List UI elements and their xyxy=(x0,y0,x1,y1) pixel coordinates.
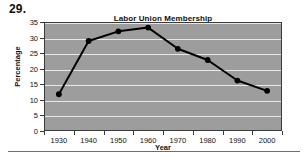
chart-figure: Labor Union Membership Percentage 051015… xyxy=(0,12,308,148)
x-axis-tick-mark xyxy=(193,131,194,135)
y-axis-tick-label: 10 xyxy=(8,95,38,104)
data-point-marker xyxy=(205,57,211,63)
data-series-line xyxy=(44,22,282,131)
x-axis-tick-mark xyxy=(252,131,253,135)
x-axis-tick-mark xyxy=(44,131,45,135)
y-axis-tick-label: 35 xyxy=(8,18,38,27)
data-point-marker xyxy=(115,28,121,34)
y-axis-tick-label: 15 xyxy=(8,80,38,89)
data-point-marker xyxy=(175,46,181,52)
series-polyline xyxy=(59,28,267,95)
x-axis-tick-mark xyxy=(133,131,134,135)
data-point-marker xyxy=(145,25,151,31)
y-axis-tick-label: 5 xyxy=(8,111,38,120)
x-axis-tick-mark xyxy=(104,131,105,135)
y-axis-tick-label: 25 xyxy=(8,49,38,58)
data-point-marker xyxy=(56,91,62,97)
y-axis-tick-label: 20 xyxy=(8,64,38,73)
y-axis-tick-label: 0 xyxy=(8,127,38,136)
data-point-marker xyxy=(86,38,92,44)
bottom-divider xyxy=(8,151,300,152)
x-axis-tick-mark xyxy=(282,131,283,135)
x-axis-tick-mark xyxy=(163,131,164,135)
x-axis-tick-mark xyxy=(74,131,75,135)
series-markers xyxy=(56,25,270,97)
data-point-marker xyxy=(234,78,240,84)
y-axis-tick-label: 30 xyxy=(8,33,38,42)
data-point-marker xyxy=(264,88,270,94)
y-axis-tick-labels: 05101520253035 xyxy=(0,22,44,131)
x-axis-tick-mark xyxy=(223,131,224,135)
